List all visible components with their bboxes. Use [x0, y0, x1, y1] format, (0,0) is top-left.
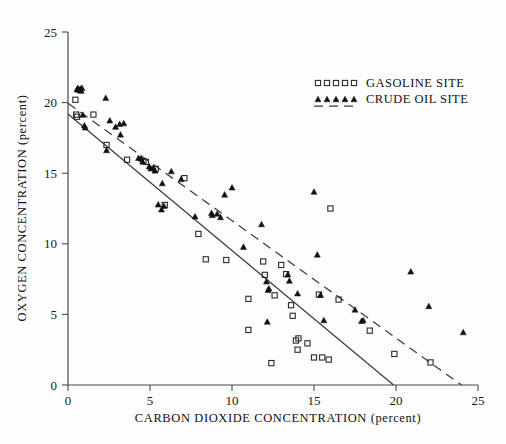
regression-lines	[68, 103, 462, 385]
data-point-triangle	[426, 303, 432, 309]
data-point-triangle	[117, 132, 123, 138]
data-point-triangle	[264, 319, 270, 325]
data-point-triangle	[121, 120, 127, 126]
data-point-triangle	[103, 95, 109, 101]
series-crude-oil-site	[74, 85, 466, 335]
y-tick-label-25: 25	[44, 25, 57, 40]
x-tick-label-10: 10	[226, 393, 239, 408]
data-point-triangle	[333, 96, 339, 102]
data-point-square	[196, 231, 201, 236]
data-point-square	[351, 80, 356, 85]
y-axis-title: OXYGEN CONCENTRATION (percent)	[15, 95, 29, 322]
legend-label-0: GASOLINE SITE	[366, 76, 465, 90]
data-point-square	[324, 80, 329, 85]
data-point-square	[342, 80, 347, 85]
y-tick-label-10: 10	[44, 236, 57, 251]
data-point-square	[320, 355, 325, 360]
data-point-square	[311, 355, 316, 360]
crude-oil-fit	[68, 103, 462, 385]
data-point-triangle	[342, 96, 348, 102]
y-tick-label-15: 15	[44, 166, 57, 181]
data-point-square	[333, 80, 338, 85]
gasoline-fit	[68, 114, 394, 385]
data-point-square	[290, 313, 295, 318]
legend-label-1: CRUDE OIL SITE	[366, 92, 468, 106]
data-point-square	[428, 360, 433, 365]
data-point-triangle	[351, 96, 357, 102]
data-point-square	[272, 293, 277, 298]
y-tick-label-0: 0	[51, 378, 58, 393]
data-point-triangle	[460, 329, 466, 335]
data-point-square	[246, 296, 251, 301]
legend: GASOLINE SITECRUDE OIL SITE	[314, 76, 468, 106]
data-point-triangle	[295, 290, 301, 296]
data-point-triangle	[159, 180, 165, 186]
data-point-square	[246, 327, 251, 332]
data-point-triangle	[315, 96, 321, 102]
data-point-triangle	[408, 269, 414, 275]
y-tick-label-20: 20	[44, 95, 57, 110]
data-point-square	[73, 97, 78, 102]
data-point-triangle	[229, 185, 235, 191]
plot-canvas: 05101520250510152025 GASOLINE SITECRUDE …	[0, 0, 506, 444]
data-point-square	[279, 262, 284, 267]
data-point-triangle	[155, 202, 161, 208]
data-point-square	[367, 328, 372, 333]
data-point-triangle	[178, 176, 184, 182]
x-axis-title: CARBON DIOXIDE CONCENTRATION (percent)	[135, 411, 421, 425]
data-point-square	[269, 361, 274, 366]
data-point-triangle	[192, 214, 198, 220]
data-point-triangle	[168, 168, 174, 174]
data-point-triangle	[286, 278, 292, 284]
data-point-triangle	[314, 252, 320, 258]
data-point-square	[305, 341, 310, 346]
scatter-plot-figure: 05101520250510152025 GASOLINE SITECRUDE …	[0, 0, 506, 444]
data-point-square	[224, 257, 229, 262]
x-tick-label-20: 20	[390, 393, 403, 408]
x-tick-label-0: 0	[65, 393, 72, 408]
data-point-square	[326, 357, 331, 362]
data-point-triangle	[222, 192, 228, 198]
data-point-triangle	[324, 96, 330, 102]
data-point-triangle	[285, 271, 291, 277]
data-point-square	[315, 80, 320, 85]
data-point-triangle	[259, 221, 265, 227]
data-point-triangle	[240, 244, 246, 250]
data-point-square	[261, 259, 266, 264]
data-point-triangle	[311, 189, 317, 195]
x-tick-label-5: 5	[147, 393, 154, 408]
data-point-square	[203, 257, 208, 262]
legend-entry-0: GASOLINE SITE	[315, 76, 464, 90]
data-point-square	[91, 112, 96, 117]
data-point-square	[295, 347, 300, 352]
legend-entry-1: CRUDE OIL SITE	[314, 92, 468, 106]
data-point-triangle	[107, 117, 113, 123]
data-point-square	[288, 303, 293, 308]
data-point-triangle	[321, 317, 327, 323]
y-tick-label-5: 5	[51, 307, 58, 322]
data-point-square	[328, 206, 333, 211]
data-point-triangle	[266, 286, 272, 292]
data-point-triangle	[318, 292, 324, 298]
x-tick-label-15: 15	[308, 393, 321, 408]
x-tick-label-25: 25	[472, 393, 485, 408]
data-series	[73, 85, 466, 366]
data-point-square	[392, 351, 397, 356]
